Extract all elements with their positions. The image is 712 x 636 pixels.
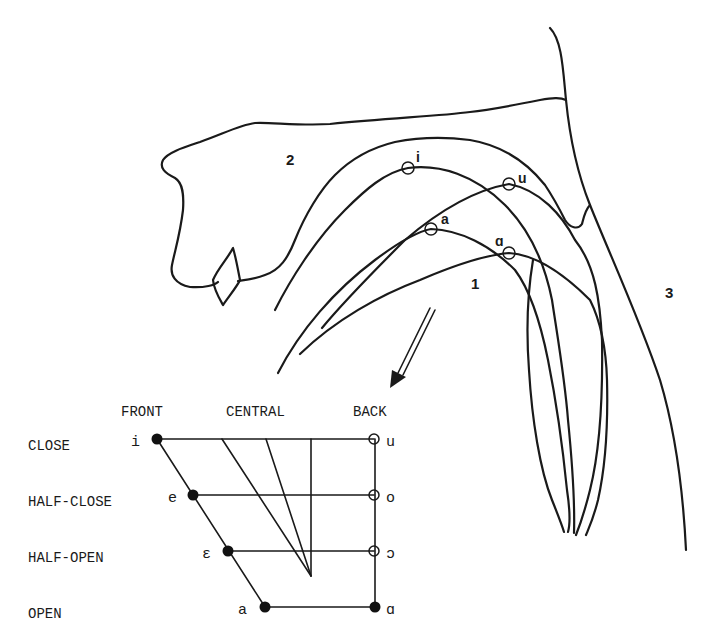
vowel-symbol-e: e <box>168 490 177 507</box>
palate-number-label: 2 <box>286 151 294 168</box>
column-header-central: CENTRAL <box>226 404 285 420</box>
row-label-open: OPEN <box>28 606 62 622</box>
tongue-root-line <box>528 260 564 532</box>
vowel-symbol-o: o <box>386 490 395 507</box>
vowel-symbol-open-e: ɛ <box>202 546 211 563</box>
tongue-contour-a <box>278 229 569 532</box>
tongue-label-open-back: ɑ <box>495 233 504 249</box>
vowel-point-e <box>188 490 199 501</box>
row-label-half-open: HALF-OPEN <box>28 550 104 566</box>
row-label-half-close: HALF-CLOSE <box>28 494 112 510</box>
vowel-symbol-i: i <box>131 434 140 451</box>
vowel-point-i <box>152 434 163 445</box>
vowel-quadrilateral: FRONT CENTRAL BACK CLOSE HALF-CLOSE HALF… <box>28 404 395 622</box>
pharynx-number-label: 3 <box>665 284 673 301</box>
column-header-back: BACK <box>353 404 387 420</box>
tongue-number-label: 1 <box>471 275 479 292</box>
incisor-tooth <box>213 248 240 305</box>
derivation-arrow-icon <box>390 308 435 388</box>
row-label-close: CLOSE <box>28 438 70 454</box>
tongue-label-a: a <box>441 211 449 227</box>
tongue-label-u: u <box>518 170 527 186</box>
tongue-contour-i <box>275 167 574 533</box>
vowel-symbol-open-o: ɔ <box>386 546 395 563</box>
sagittal-section: i u a ɑ 1 2 3 <box>162 28 686 550</box>
tongue-label-i: i <box>416 149 420 165</box>
vowel-point-a <box>260 602 271 613</box>
tongue-contour-open-back <box>300 253 607 535</box>
vowel-point-open-e <box>223 546 234 557</box>
central-line-2 <box>266 439 311 576</box>
vowel-symbol-u: u <box>386 434 395 451</box>
column-header-front: FRONT <box>121 404 163 420</box>
central-line-1 <box>222 439 311 576</box>
front-edge <box>157 439 265 607</box>
vowel-symbol-open-back-a: ɑ <box>386 602 395 619</box>
vowel-point-open-back-a <box>370 602 381 613</box>
vowel-symbol-a: a <box>238 602 247 619</box>
vocal-tract-diagram: i u a ɑ 1 2 3 FRONT CENTRAL BACK CLOSE H… <box>0 0 712 636</box>
